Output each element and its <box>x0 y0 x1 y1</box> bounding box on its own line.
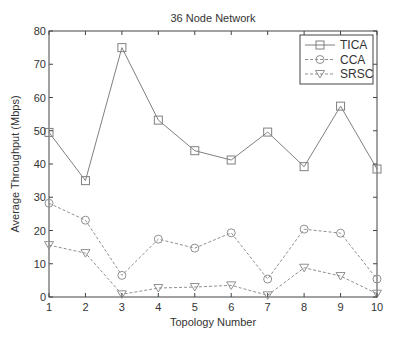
x-axis-label: Topology Number <box>170 316 257 328</box>
x-tick-label: 4 <box>155 301 161 313</box>
y-tick-label: 10 <box>34 258 46 270</box>
x-tick-label: 2 <box>82 301 88 313</box>
y-axis-label: Average Throughput (Mbps) <box>9 95 21 232</box>
y-tick-label: 60 <box>34 92 46 104</box>
y-tick-label: 50 <box>34 125 46 137</box>
legend: TICACCASRSC <box>300 35 374 84</box>
series-srsc <box>45 242 382 300</box>
y-tick-label: 40 <box>34 158 46 170</box>
x-tick-label: 3 <box>119 301 125 313</box>
x-tick-label: 8 <box>301 301 307 313</box>
chart-title: 36 Node Network <box>171 12 256 24</box>
legend-item-tica: TICA <box>340 38 367 52</box>
triangle-marker <box>336 273 345 281</box>
legend-item-srsc: SRSC <box>340 67 374 81</box>
y-tick-label: 30 <box>34 191 46 203</box>
series-cca <box>45 199 381 283</box>
y-tick-label: 0 <box>40 291 46 303</box>
y-tick-label: 70 <box>34 58 46 70</box>
circle-marker <box>227 229 235 237</box>
line-chart: 36 Node Network 12345678910 010203040506… <box>0 0 396 338</box>
y-tick-label: 80 <box>34 25 46 37</box>
x-tick-label: 1 <box>46 301 52 313</box>
legend-item-cca: CCA <box>340 53 365 67</box>
x-tick-label: 6 <box>228 301 234 313</box>
x-tick-label: 10 <box>371 301 383 313</box>
circle-marker <box>264 275 272 283</box>
x-tick-label: 5 <box>192 301 198 313</box>
y-tick-label: 20 <box>34 225 46 237</box>
x-tick-label: 9 <box>337 301 343 313</box>
x-tick-label: 7 <box>265 301 271 313</box>
